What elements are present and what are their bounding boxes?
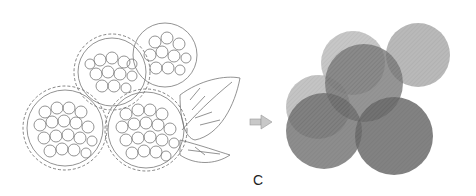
leaf-icon bbox=[180, 77, 240, 162]
figure-panel: C bbox=[0, 0, 476, 196]
arrow-right-icon bbox=[250, 115, 272, 129]
berry-left bbox=[27, 90, 103, 166]
berry-top-right bbox=[133, 23, 197, 87]
berry-bottom-right bbox=[108, 92, 184, 168]
raspberry-drawing bbox=[23, 23, 240, 171]
panel-label: C bbox=[253, 172, 263, 188]
figure-canvas bbox=[0, 0, 476, 196]
berry-top-middle bbox=[78, 38, 146, 106]
circle-abstraction bbox=[286, 23, 450, 175]
